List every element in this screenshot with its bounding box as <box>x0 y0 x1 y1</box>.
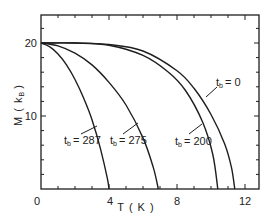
y-axis-title: M ( kB) <box>12 84 25 126</box>
curve-t-b-0 <box>41 43 235 189</box>
x-tick-0: 0 <box>34 195 40 207</box>
label-tb200: tb= 200 <box>175 124 212 148</box>
x-tick-8: 8 <box>174 195 180 207</box>
plot-frame <box>41 15 259 189</box>
label-tb0: tb= 0 <box>206 76 241 97</box>
curve-t-b-275 <box>41 43 158 189</box>
curve-t-b-287 <box>41 43 109 189</box>
curve-t-b-200 <box>41 43 218 189</box>
label-tb275: tb= 275 <box>110 123 147 147</box>
svg-text:tb= 200: tb= 200 <box>175 135 212 148</box>
svg-text:tb= 287: tb= 287 <box>64 134 101 147</box>
y-tick-10: 10 <box>25 110 37 122</box>
svg-text:M ( kB): M ( kB) <box>12 84 25 126</box>
x-tick-4: 4 <box>107 195 113 207</box>
svg-text:tb= 275: tb= 275 <box>110 134 147 147</box>
x-tick-12: 12 <box>239 195 251 207</box>
chart-canvas: 0 4 8 12 20 10 T ( K ) M ( kB) tb= 0 tb=… <box>0 0 273 219</box>
svg-text:tb= 0: tb= 0 <box>216 76 241 89</box>
x-axis-title: T ( K ) <box>117 201 154 213</box>
y-tick-20: 20 <box>25 37 37 49</box>
curves <box>41 43 235 189</box>
tick-marks <box>41 15 259 189</box>
